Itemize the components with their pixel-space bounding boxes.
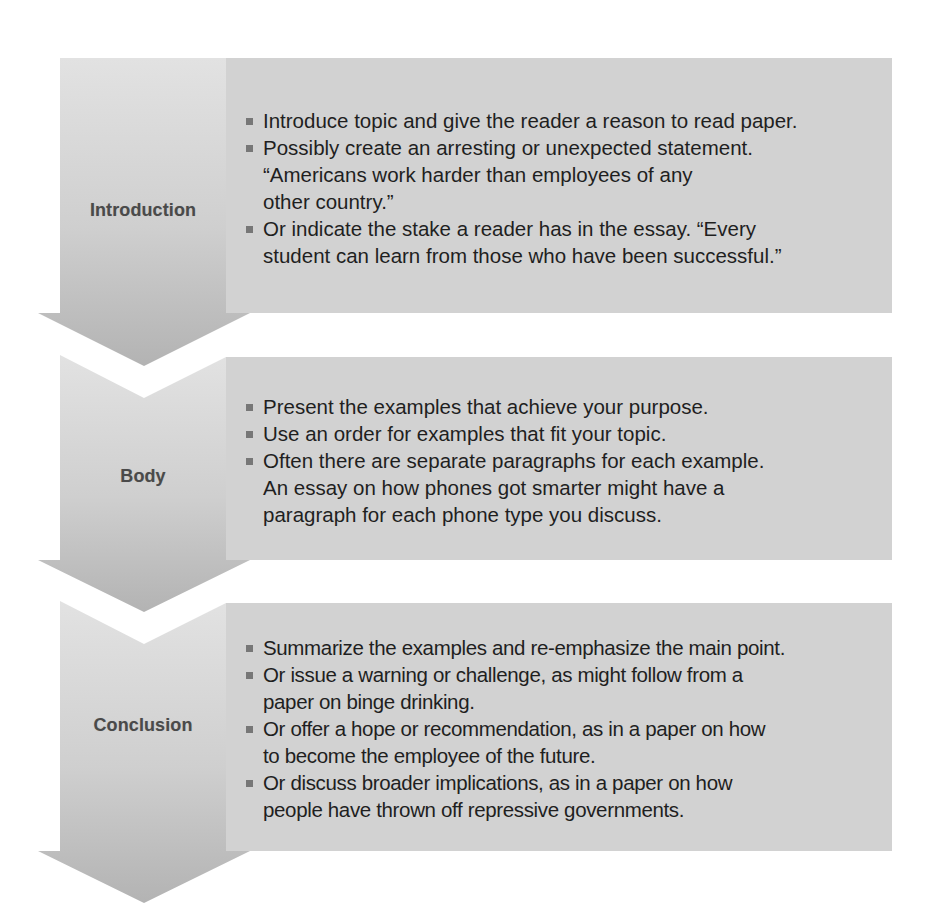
bullet-item: Or indicate the stake a reader has in th… xyxy=(246,215,882,269)
bullet-square-icon xyxy=(246,226,253,233)
arrow-conclusion xyxy=(38,601,250,903)
bullet-item: Summarize the examples and re-emphasize … xyxy=(246,634,882,661)
bullet-square-icon xyxy=(246,780,253,787)
bullet-item: Present the examples that achieve your p… xyxy=(246,393,882,420)
bullet-item: Possibly create an arresting or unexpect… xyxy=(246,134,882,215)
content-box-conclusion: Summarize the examples and re-emphasize … xyxy=(226,603,892,851)
stage-label-introduction: Introduction xyxy=(60,200,226,221)
bullet-list-body: Present the examples that achieve your p… xyxy=(246,393,882,528)
essay-structure-diagram: Introduction Introduce topic and give th… xyxy=(0,0,933,918)
bullet-item: Or discuss broader implications, as in a… xyxy=(246,769,882,823)
bullet-square-icon xyxy=(246,645,253,652)
bullet-item: Use an order for examples that fit your … xyxy=(246,420,882,447)
bullet-square-icon xyxy=(246,404,253,411)
bullet-list-conclusion: Summarize the examples and re-emphasize … xyxy=(246,634,882,823)
bullet-item: Or offer a hope or recommendation, as in… xyxy=(246,715,882,769)
stage-label-body: Body xyxy=(60,466,226,487)
bullet-item: Often there are separate paragraphs for … xyxy=(246,447,882,528)
bullet-square-icon xyxy=(246,145,253,152)
bullet-square-icon xyxy=(246,118,253,125)
content-box-introduction: Introduce topic and give the reader a re… xyxy=(226,58,892,313)
bullet-square-icon xyxy=(246,726,253,733)
content-box-body: Present the examples that achieve your p… xyxy=(226,357,892,560)
stage-label-conclusion: Conclusion xyxy=(60,715,226,736)
bullet-list-introduction: Introduce topic and give the reader a re… xyxy=(246,107,882,269)
bullet-square-icon xyxy=(246,672,253,679)
bullet-item: Introduce topic and give the reader a re… xyxy=(246,107,882,134)
bullet-square-icon xyxy=(246,458,253,465)
bullet-item: Or issue a warning or challenge, as migh… xyxy=(246,661,882,715)
bullet-square-icon xyxy=(246,431,253,438)
